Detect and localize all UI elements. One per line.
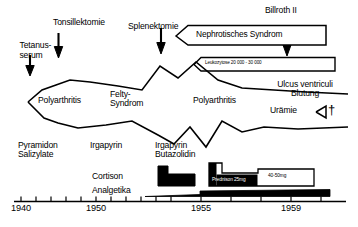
therapy-label-cortison: Cortison (92, 172, 123, 181)
axis-tick-label-1950: 1950 (81, 204, 111, 214)
event-label-splenektomie: Splenektomie (128, 22, 178, 31)
event-label-tetanusserum: Tetanus- serum (4, 32, 58, 69)
therapy-label-prednison-secondary: 40-50mg (268, 173, 286, 178)
banner-label-leukozytose: Leukozytose 20 000 - 30 000 (205, 61, 262, 66)
cortison-bar-shape (158, 166, 195, 186)
band-label-polyarthritis-1: Polyarthritis (38, 96, 81, 105)
therapy-label-analgetika: Analgetika (92, 186, 131, 195)
complication-label-uraemie: Urämie (270, 106, 297, 115)
event-label-tonsillektomie: Tonsillektomie (53, 18, 105, 27)
axis-tick-label-1959: 1959 (276, 204, 306, 214)
analgetika-bar-shape (145, 190, 330, 197)
drug-label-pyramidon-salizylate: Pyramidon Salizylate (18, 141, 58, 160)
band-tail-pointer (316, 106, 326, 118)
prednison-bar-shape (209, 163, 314, 186)
axis-tick-label-1940: 1940 (6, 204, 36, 214)
axis-tick-label-1955: 1955 (186, 204, 216, 214)
drug-label-irgapyrin-butazolidin: Irgapyrin Butazolidin (155, 141, 195, 160)
band-label-polyarthritis-2: Polyarthritis (193, 96, 236, 105)
outcome-death-symbol: † (328, 103, 335, 116)
band-label-felty-syndrom: Felty- Syndrom (110, 90, 143, 109)
event-arrow-splenektomie (157, 28, 165, 54)
banner-label-nephrotisches-syndrom: Nephrotisches Syndrom (196, 30, 282, 39)
event-label-billroth2: Billroth II (265, 6, 297, 15)
complication-label-ulcus-ventriculi: Ulcus ventriculi Blutung (258, 80, 352, 99)
drug-label-irgapyrin-1: Irgapyrin (90, 141, 122, 150)
case-history-timeline-figure: Tetanus- serum Tonsillektomie Splenektom… (0, 0, 358, 227)
therapy-label-prednison: Prednison 25mg (212, 177, 246, 182)
